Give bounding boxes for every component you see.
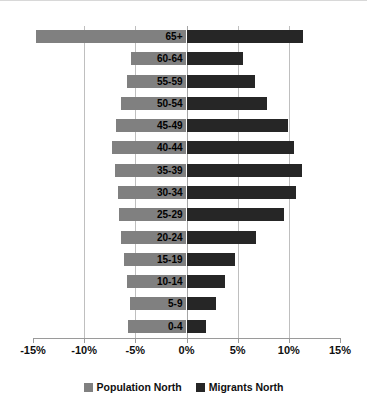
age-group-label: 55-59 xyxy=(157,74,183,89)
chart-row: 20-24 xyxy=(33,227,340,249)
axis-tick xyxy=(289,338,290,343)
axis-tick xyxy=(340,338,341,343)
chart-legend: Population NorthMigrants North xyxy=(0,381,367,393)
age-group-label: 10-14 xyxy=(157,274,183,289)
chart-row: 65+ xyxy=(33,26,340,48)
bar-migrants-north xyxy=(187,30,304,43)
chart-row: 15-19 xyxy=(33,249,340,271)
legend-swatch-icon xyxy=(196,383,205,392)
chart-row: 0-4 xyxy=(33,316,340,338)
chart-row: 10-14 xyxy=(33,271,340,293)
age-group-label: 65+ xyxy=(166,29,183,44)
axis-tick-label: -15% xyxy=(20,344,46,356)
bar-migrants-north xyxy=(187,141,294,154)
bar-migrants-north xyxy=(187,297,217,310)
age-group-label: 45-49 xyxy=(157,118,183,133)
chart-row: 25-29 xyxy=(33,204,340,226)
axis-tick xyxy=(84,338,85,343)
bar-migrants-north xyxy=(187,75,256,88)
axis-tick-label: 5% xyxy=(230,344,246,356)
legend-item[interactable]: Population North xyxy=(84,381,182,393)
legend-label: Population North xyxy=(97,381,182,393)
bar-migrants-north xyxy=(187,320,206,333)
axis-tick-label: 15% xyxy=(329,344,351,356)
chart-row: 5-9 xyxy=(33,293,340,315)
age-group-label: 60-64 xyxy=(157,51,183,66)
age-group-label: 40-44 xyxy=(157,140,183,155)
axis-tick xyxy=(33,338,34,343)
axis-tick-label: 0% xyxy=(179,344,195,356)
chart-row: 45-49 xyxy=(33,115,340,137)
plot-area: 65+60-6455-5950-5445-4940-4435-3930-3425… xyxy=(33,26,340,338)
bar-migrants-north xyxy=(187,164,303,177)
bar-population-north xyxy=(36,30,186,43)
bar-migrants-north xyxy=(187,119,288,132)
bar-migrants-north xyxy=(187,208,284,221)
bar-migrants-north xyxy=(187,253,235,266)
axis-tick-label: -5% xyxy=(126,344,146,356)
bar-migrants-north xyxy=(187,275,226,288)
bar-migrants-north xyxy=(187,186,296,199)
axis-tick xyxy=(238,338,239,343)
bar-migrants-north xyxy=(187,52,243,65)
population-pyramid-chart: 65+60-6455-5950-5445-4940-4435-3930-3425… xyxy=(0,0,367,420)
chart-row: 40-44 xyxy=(33,137,340,159)
legend-label: Migrants North xyxy=(209,381,284,393)
age-group-label: 25-29 xyxy=(157,207,183,222)
legend-swatch-icon xyxy=(84,383,93,392)
chart-row: 35-39 xyxy=(33,160,340,182)
chart-row: 55-59 xyxy=(33,71,340,93)
chart-row: 60-64 xyxy=(33,48,340,70)
axis-tick-label: -10% xyxy=(71,344,97,356)
bar-migrants-north xyxy=(187,97,268,110)
chart-row: 30-34 xyxy=(33,182,340,204)
axis-tick xyxy=(135,338,136,343)
age-group-label: 20-24 xyxy=(157,230,183,245)
age-group-label: 15-19 xyxy=(157,252,183,267)
bar-migrants-north xyxy=(187,231,257,244)
legend-item[interactable]: Migrants North xyxy=(196,381,284,393)
age-group-label: 30-34 xyxy=(157,185,183,200)
axis-tick xyxy=(187,338,188,343)
age-group-label: 0-4 xyxy=(168,319,182,334)
age-group-label: 50-54 xyxy=(157,96,183,111)
age-group-label: 5-9 xyxy=(168,296,182,311)
axis-tick-label: 10% xyxy=(278,344,300,356)
age-group-label: 35-39 xyxy=(157,163,183,178)
chart-row: 50-54 xyxy=(33,93,340,115)
